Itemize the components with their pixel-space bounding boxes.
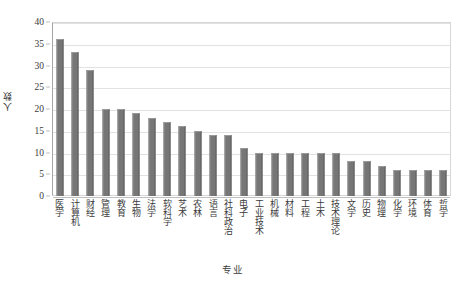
bar[interactable] xyxy=(348,161,355,196)
x-axis-tick-label: 财经 xyxy=(85,199,95,217)
x-axis-tick-label: 艺术 xyxy=(177,199,187,217)
y-axis-tick-mark xyxy=(46,130,50,131)
y-axis-tick-label: 15 xyxy=(35,126,45,136)
y-axis-tick-label: 35 xyxy=(35,39,45,49)
x-axis-tick-label: 生物 xyxy=(131,199,141,217)
bar[interactable] xyxy=(409,170,416,196)
y-axis-tick-label: 40 xyxy=(35,17,45,27)
bar[interactable] xyxy=(179,126,186,196)
bar-slot xyxy=(252,22,267,196)
bar[interactable] xyxy=(332,153,339,197)
x-axis-tick-label: 社科政治 xyxy=(223,199,233,235)
y-axis-tick-label: 30 xyxy=(35,61,45,71)
bar[interactable] xyxy=(286,153,293,197)
bar[interactable] xyxy=(56,39,63,196)
x-axis-tick-label: 工程 xyxy=(300,199,310,217)
bar-slot xyxy=(420,22,435,196)
x-axis-tick-labels: 医学计算机财经管理教育生物法学软科学艺术农林语言社科政治电子工业技术机械材料工程… xyxy=(52,199,451,255)
x-axis-tick-label: 环境 xyxy=(408,199,418,217)
bar-slot xyxy=(205,22,220,196)
bar[interactable] xyxy=(317,153,324,197)
bar[interactable] xyxy=(225,135,232,196)
bar-slot xyxy=(83,22,98,196)
x-axis-tick-label: 法学 xyxy=(147,199,157,217)
x-axis-tick-label: 化学 xyxy=(392,199,402,217)
bar-slot xyxy=(98,22,113,196)
bar[interactable] xyxy=(164,122,171,196)
bar-slot xyxy=(159,22,174,196)
x-axis-tick-label: 历史 xyxy=(362,199,372,217)
bar-slot xyxy=(359,22,374,196)
x-axis-tick-label: 土木 xyxy=(316,199,326,217)
gridline xyxy=(53,197,450,198)
x-axis-title: 专业 xyxy=(0,262,465,276)
x-axis-tick-label: 体育 xyxy=(423,199,433,217)
x-axis-tick-label: 机械 xyxy=(270,199,280,217)
x-axis-tick-label: 医学 xyxy=(55,199,65,217)
bar-slot xyxy=(344,22,359,196)
x-axis-tick-label: 语言 xyxy=(208,199,218,217)
bar[interactable] xyxy=(363,161,370,196)
y-axis-tick-mark xyxy=(46,152,50,153)
y-axis-tick-mark xyxy=(46,87,50,88)
bar-chart: 人数 0510152025303540 医学计算机财经管理教育生物法学软科学艺术… xyxy=(0,0,465,293)
y-axis-tick-mark xyxy=(46,196,50,197)
x-axis-tick-label: 工业技术 xyxy=(254,199,264,235)
bar[interactable] xyxy=(102,109,109,196)
x-axis-tick-label: 哲学 xyxy=(438,199,448,217)
bar-slot xyxy=(282,22,297,196)
bar-slot xyxy=(52,22,67,196)
x-axis-tick-label: 电子 xyxy=(239,199,249,217)
y-axis-tick-mark xyxy=(46,22,50,23)
bar-slot xyxy=(221,22,236,196)
bar[interactable] xyxy=(256,153,263,197)
bar-slot xyxy=(298,22,313,196)
bar[interactable] xyxy=(87,70,94,196)
bar[interactable] xyxy=(240,148,247,196)
y-axis-tick-label: 20 xyxy=(35,104,45,114)
y-axis-tick-label: 0 xyxy=(39,191,44,201)
bar-slot xyxy=(67,22,82,196)
bar-slot xyxy=(190,22,205,196)
bar[interactable] xyxy=(72,52,79,196)
bar[interactable] xyxy=(394,170,401,196)
bar[interactable] xyxy=(302,153,309,197)
x-axis-tick-label: 文学 xyxy=(346,199,356,217)
y-axis-tick-label: 10 xyxy=(35,148,45,158)
bar-slot xyxy=(313,22,328,196)
bar[interactable] xyxy=(440,170,447,196)
bar-slot xyxy=(236,22,251,196)
x-axis-tick-label: 管理 xyxy=(101,199,111,217)
bar-slot xyxy=(175,22,190,196)
y-axis-tick-mark xyxy=(46,65,50,66)
bar-slot xyxy=(267,22,282,196)
bar-slot xyxy=(374,22,389,196)
x-axis-tick-label: 计算机 xyxy=(70,199,80,226)
bar-slot xyxy=(113,22,128,196)
bar[interactable] xyxy=(133,113,140,196)
x-axis-tick-label: 农林 xyxy=(193,199,203,217)
bars-layer xyxy=(52,22,451,196)
bar-slot xyxy=(390,22,405,196)
bar[interactable] xyxy=(271,153,278,197)
y-axis-tick-mark xyxy=(46,109,50,110)
x-axis-tick-label: 技术理论 xyxy=(331,199,341,235)
bar-slot xyxy=(328,22,343,196)
y-axis-tick-label: 25 xyxy=(35,82,45,92)
x-axis-tick-label: 材料 xyxy=(285,199,295,217)
bar[interactable] xyxy=(424,170,431,196)
bar-slot xyxy=(405,22,420,196)
x-axis-tick-label: 物理 xyxy=(377,199,387,217)
bar[interactable] xyxy=(210,135,217,196)
x-axis-tick-label: 软科学 xyxy=(162,199,172,226)
bar[interactable] xyxy=(118,109,125,196)
y-axis-tick-labels: 0510152025303540 xyxy=(0,22,50,196)
bar[interactable] xyxy=(194,131,201,196)
y-axis-tick-mark xyxy=(46,43,50,44)
bar-slot xyxy=(436,22,451,196)
x-axis-tick-label: 教育 xyxy=(116,199,126,217)
bar[interactable] xyxy=(378,166,385,196)
bar[interactable] xyxy=(148,118,155,196)
y-axis-tick-label: 5 xyxy=(39,169,44,179)
bar-slot xyxy=(144,22,159,196)
